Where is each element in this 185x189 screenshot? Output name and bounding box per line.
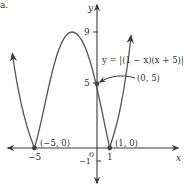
point-label-1-0: (1, 0) <box>115 138 138 148</box>
point-neg5-0 <box>32 146 37 151</box>
x-tick-label-neg5: −5 <box>28 152 42 162</box>
x-axis-label: x <box>176 153 181 163</box>
function-label: y = |(1 − x)(x + 5)| <box>101 55 184 66</box>
point-label-0-5: (0, 5) <box>137 73 160 83</box>
graph: a. x y 9 5 −5 1 −1 0 (−5, 0) (1, 0) (0, … <box>0 0 185 189</box>
x-tick-label-1: 1 <box>107 152 113 162</box>
point-leader-arrow <box>100 76 135 82</box>
y-tick-label-9: 9 <box>84 27 90 37</box>
curve-left-branch <box>13 54 35 148</box>
point-0-5 <box>95 81 100 86</box>
part-label: a. <box>0 0 8 10</box>
curve-right-branch <box>110 36 131 148</box>
y-axis-label: y <box>87 3 94 13</box>
curve-middle-hump <box>34 32 109 148</box>
point-1-0 <box>107 146 112 151</box>
y-tick-label-5: 5 <box>84 78 90 88</box>
point-label-neg5-0: (−5, 0) <box>40 138 70 148</box>
origin-label: 0 <box>89 150 94 159</box>
